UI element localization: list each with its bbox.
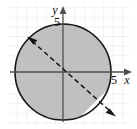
y-axis-tick-label-5: 5 (54, 15, 60, 29)
coordinate-plane-svg: y 5 5 x (0, 0, 137, 129)
x-axis-label: x (123, 73, 130, 87)
math-figure: y 5 5 x (0, 0, 137, 129)
x-axis-tick-label-5: 5 (111, 73, 117, 87)
